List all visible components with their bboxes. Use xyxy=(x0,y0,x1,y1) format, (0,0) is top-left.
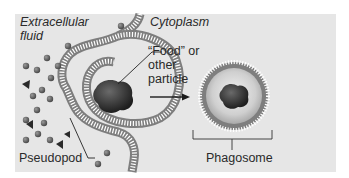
pseudopod-label: Pseudopod xyxy=(19,152,82,165)
phagosome-label: Phagosome xyxy=(206,152,273,165)
food-label-line1: “Food” or xyxy=(148,45,199,58)
food-label-line2: other xyxy=(148,59,177,72)
phagosome xyxy=(200,62,268,130)
food-leader-line xyxy=(118,52,152,84)
arrow-right-icon xyxy=(150,94,190,101)
phagosome-bracket xyxy=(193,130,272,139)
extracellular-fluid-label-line2: fluid xyxy=(20,30,43,43)
cytoplasm-label: Cytoplasm xyxy=(150,16,209,29)
food-label-line3: particle xyxy=(148,73,188,86)
extracellular-fluid-label-line1: Extracellular xyxy=(20,16,89,29)
